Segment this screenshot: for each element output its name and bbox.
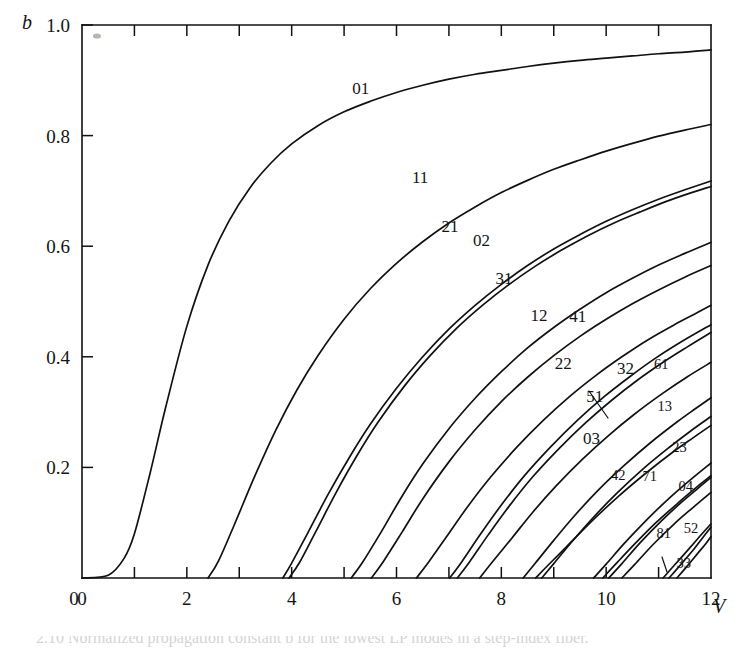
curve-label-22: 22 — [555, 354, 572, 373]
caption-strip: 2.10 Normalized propagation constant b f… — [0, 636, 746, 651]
scan-speck — [93, 33, 101, 38]
x-tick-label: 6 — [392, 588, 402, 609]
curve-label-13: 13 — [658, 398, 673, 414]
curve-label-41: 41 — [569, 307, 586, 326]
figure-caption: 2.10 Normalized propagation constant b f… — [36, 636, 726, 647]
curve-label-11: 11 — [412, 168, 428, 187]
curve-group — [82, 50, 711, 578]
y-tick-label: 0 — [69, 588, 79, 609]
curve-label-42: 42 — [611, 467, 626, 483]
y-axis-title: b — [22, 11, 32, 33]
curve-label-33: 33 — [676, 555, 691, 571]
y-tick-label: 1.0 — [46, 15, 70, 36]
x-tick-labels: 024681012 — [77, 588, 720, 609]
figure-container: 0111210231124122326151031323427104815233… — [0, 0, 746, 651]
curve-label-32: 32 — [617, 359, 634, 378]
x-tick-label: 10 — [597, 588, 616, 609]
curve-label-04: 04 — [679, 478, 694, 494]
curve-label-23: 23 — [672, 439, 687, 455]
x-tick-label: 4 — [287, 588, 297, 609]
curve-labels: 0111210231124122326151031323427104815233 — [352, 79, 698, 571]
dispersion-chart: 0111210231124122326151031323427104815233… — [0, 0, 746, 651]
curve-label-61: 61 — [654, 356, 669, 372]
leader-line-33 — [662, 557, 667, 572]
axis-frame — [82, 25, 711, 578]
x-axis-ticks — [134, 25, 658, 578]
curve-label-71: 71 — [642, 468, 657, 484]
y-tick-label: 0.4 — [46, 347, 70, 368]
x-tick-label: 8 — [497, 588, 507, 609]
curve-label-21: 21 — [441, 217, 458, 236]
y-tick-label: 0.2 — [46, 457, 70, 478]
curve-label-02: 02 — [473, 231, 490, 250]
y-tick-label: 0.6 — [46, 236, 70, 257]
curve-label-12: 12 — [531, 306, 548, 325]
y-tick-labels: 00.20.40.60.81.0 — [46, 15, 79, 609]
curve-label-03: 03 — [583, 429, 600, 448]
y-axis-ticks — [82, 25, 93, 467]
curve-label-52: 52 — [684, 520, 699, 536]
mode-curve-21 — [283, 181, 711, 578]
curve-label-81: 81 — [657, 525, 672, 541]
x-axis-title: V — [713, 595, 728, 617]
y-tick-label: 0.8 — [46, 126, 70, 147]
curve-label-31: 31 — [495, 269, 512, 288]
curve-label-01: 01 — [352, 79, 369, 98]
curve-label-51: 51 — [586, 387, 603, 406]
mode-curve-03 — [457, 332, 711, 578]
mode-curve-11 — [208, 125, 711, 578]
x-tick-label: 2 — [182, 588, 192, 609]
